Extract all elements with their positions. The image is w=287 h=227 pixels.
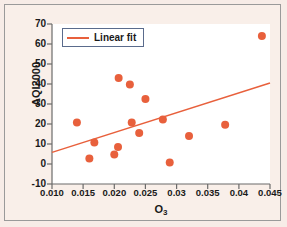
data-point <box>73 119 81 127</box>
data-point <box>114 143 122 151</box>
y-axis-title: AQI2000 <box>30 44 42 124</box>
chart-legend: Linear fit <box>62 28 144 47</box>
y-tick-label: 0 <box>18 159 46 169</box>
x-axis-title-base: O <box>154 203 163 215</box>
legend-label: Linear fit <box>94 32 136 43</box>
data-point <box>258 32 266 40</box>
data-point <box>135 129 143 137</box>
data-point <box>85 155 93 163</box>
x-tick-label: 0.045 <box>250 187 287 198</box>
scatter-plot-figure: 70 60 50 40 30 20 10 0 -10 0.010 0.015 0… <box>0 0 287 227</box>
data-point <box>141 95 149 103</box>
data-point <box>126 81 134 89</box>
plot-area-background <box>52 24 270 184</box>
data-point <box>128 118 136 126</box>
legend-line-swatch <box>67 37 89 39</box>
data-point <box>110 151 118 159</box>
data-point <box>221 121 229 129</box>
y-tick-marks <box>47 24 52 184</box>
data-point <box>159 115 167 123</box>
data-point <box>90 138 98 146</box>
data-point <box>115 74 123 82</box>
y-tick-label: 70 <box>18 19 46 29</box>
x-axis-title-subscript: 3 <box>163 208 167 217</box>
data-point <box>166 159 174 167</box>
y-tick-label: 10 <box>18 139 46 149</box>
data-point <box>185 132 193 140</box>
x-axis-title: O3 <box>52 203 270 217</box>
